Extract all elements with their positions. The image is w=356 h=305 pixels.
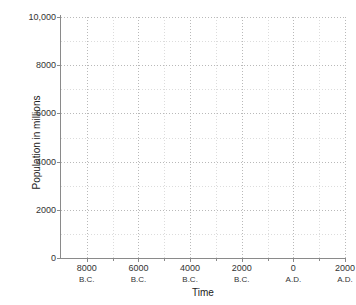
x-tick-label-number: 6000 xyxy=(128,263,148,273)
y-tick-label: 10,000 xyxy=(0,12,56,22)
y-axis-spine xyxy=(60,15,61,259)
gridline-horizontal-minor xyxy=(61,138,345,139)
gridline-vertical-major xyxy=(138,17,139,258)
gridline-horizontal-major xyxy=(61,210,345,211)
y-tick-label-text: 8000 xyxy=(36,60,56,70)
gridline-vertical-major xyxy=(242,17,243,258)
x-tick-label: 2000A.D. xyxy=(310,263,356,285)
gridline-vertical-minor xyxy=(319,17,320,258)
y-tick-mark xyxy=(57,210,60,211)
y-tick-label-text: 4000 xyxy=(36,157,56,167)
y-tick-label: 2000 xyxy=(0,205,56,215)
gridline-horizontal-major xyxy=(61,162,345,163)
y-axis-title: Population in millions xyxy=(31,23,42,263)
y-tick-label: 4000 xyxy=(0,157,56,167)
x-tick-mark-minor xyxy=(319,259,320,261)
x-tick-label-number: 0 xyxy=(291,263,296,273)
y-tick-label: 6000 xyxy=(0,108,56,118)
x-tick-mark xyxy=(190,259,191,262)
gridline-horizontal-minor xyxy=(61,89,345,90)
y-tick-mark xyxy=(57,258,60,259)
y-tick-mark xyxy=(57,113,60,114)
y-tick-label-text: 6000 xyxy=(36,108,56,118)
x-tick-mark-minor xyxy=(164,259,165,261)
y-tick-label: 0 xyxy=(0,253,56,263)
x-tick-label-era: A.D. xyxy=(310,274,356,285)
gridline-vertical-minor xyxy=(268,17,269,258)
x-tick-mark-minor xyxy=(113,259,114,261)
x-axis-title: Time xyxy=(61,287,345,298)
y-tick-mark xyxy=(57,162,60,163)
y-tick-label-text: 10,000 xyxy=(28,12,56,22)
gridline-horizontal-minor xyxy=(61,186,345,187)
y-tick-mark xyxy=(57,17,60,18)
gridline-horizontal-major xyxy=(61,113,345,114)
x-tick-mark-minor xyxy=(268,259,269,261)
x-tick-mark-minor xyxy=(216,259,217,261)
gridline-vertical-minor xyxy=(113,17,114,258)
chart-figure: Population in millions Time 020004000600… xyxy=(0,0,356,305)
gridline-vertical-major xyxy=(345,17,346,258)
gridline-vertical-major xyxy=(190,17,191,258)
x-tick-mark xyxy=(242,259,243,262)
gridline-horizontal-major xyxy=(61,17,345,18)
x-tick-label-number: 4000 xyxy=(180,263,200,273)
x-axis-spine xyxy=(60,258,346,259)
x-tick-mark xyxy=(87,259,88,262)
x-tick-label-number: 8000 xyxy=(77,263,97,273)
x-tick-label-number: 2000 xyxy=(335,263,355,273)
y-tick-label-text: 0 xyxy=(51,253,56,263)
y-tick-label-text: 2000 xyxy=(36,205,56,215)
plot-area xyxy=(61,17,345,258)
gridline-horizontal-minor xyxy=(61,234,345,235)
x-tick-mark xyxy=(293,259,294,262)
x-tick-label-number: 2000 xyxy=(232,263,252,273)
gridline-horizontal-major xyxy=(61,65,345,66)
gridline-vertical-minor xyxy=(164,17,165,258)
gridline-vertical-minor xyxy=(216,17,217,258)
y-tick-mark xyxy=(57,65,60,66)
gridline-vertical-major xyxy=(87,17,88,258)
y-tick-label: 8000 xyxy=(0,60,56,70)
x-tick-mark xyxy=(345,259,346,262)
gridline-vertical-major xyxy=(293,17,294,258)
gridline-horizontal-minor xyxy=(61,41,345,42)
x-tick-mark xyxy=(138,259,139,262)
